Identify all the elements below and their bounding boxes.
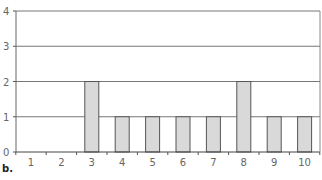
- x-tick-label: 7: [210, 157, 216, 168]
- bar-8: [237, 82, 251, 153]
- x-tick-label: 4: [119, 157, 125, 168]
- bar-5: [146, 117, 160, 152]
- x-tick-label: 5: [149, 157, 155, 168]
- y-axis-ticks: 01234: [3, 6, 16, 158]
- x-tick-label: 8: [241, 157, 247, 168]
- x-tick-label: 10: [298, 157, 311, 168]
- x-tick-label: 9: [271, 157, 277, 168]
- x-axis-ticks: 12345678910: [16, 152, 320, 168]
- x-tick-label: 3: [89, 157, 95, 168]
- y-tick-label: 2: [3, 77, 9, 88]
- bar-6: [176, 117, 190, 152]
- y-tick-label: 0: [3, 147, 9, 158]
- bar-9: [267, 117, 281, 152]
- bar-chart: 01234 12345678910: [0, 0, 322, 180]
- bar-3: [85, 82, 99, 153]
- y-tick-label: 3: [3, 41, 9, 52]
- figure-caption: b.: [2, 163, 13, 174]
- bar-10: [298, 117, 312, 152]
- x-tick-label: 1: [28, 157, 34, 168]
- gridlines: [16, 11, 320, 117]
- bar-7: [206, 117, 220, 152]
- bar-4: [115, 117, 129, 152]
- y-tick-label: 1: [3, 112, 9, 123]
- x-tick-label: 6: [180, 157, 186, 168]
- y-tick-label: 4: [3, 6, 9, 17]
- x-tick-label: 2: [58, 157, 64, 168]
